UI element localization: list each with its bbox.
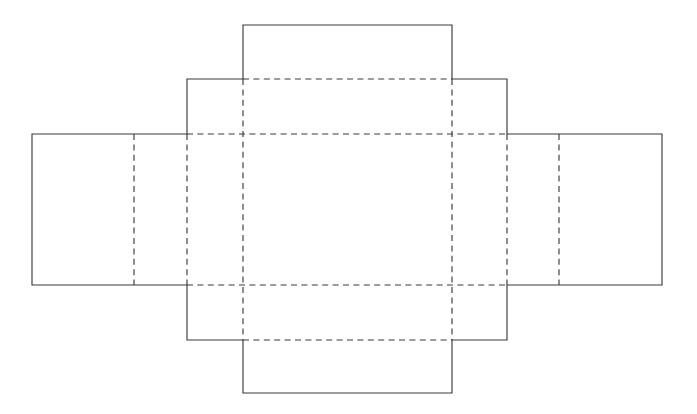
dieline-figure-canvas: [0, 0, 697, 414]
box-dieline-drawing: [0, 0, 697, 414]
